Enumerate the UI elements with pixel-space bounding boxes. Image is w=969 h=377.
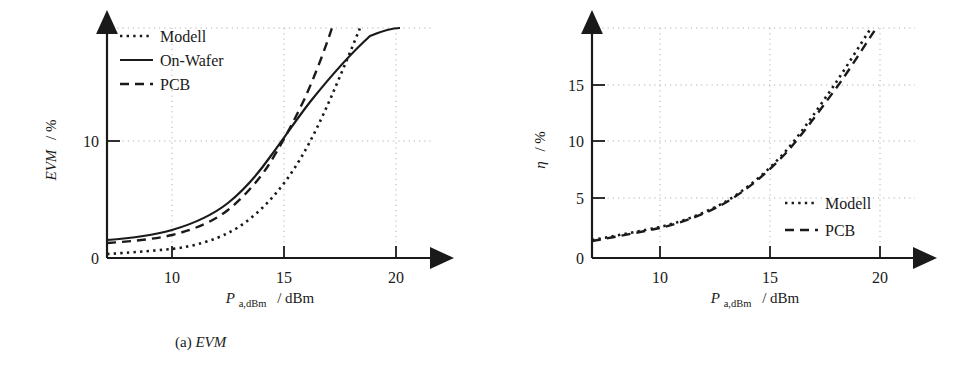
y-axis-title: η / % xyxy=(532,131,548,169)
y-axis-title-main: EVM xyxy=(43,148,59,181)
y-axis-title-unit: / % xyxy=(43,120,59,140)
legend: Modell PCB xyxy=(785,195,872,239)
chart-efficiency: 15 10 5 0 10 15 20 η / % P a,dBm / dBm xyxy=(485,0,969,330)
svg-text:P a,dBm /: P a,dBm / dBm xyxy=(710,290,800,310)
xtick-label-15: 15 xyxy=(276,269,292,286)
x-axis-title-sub: a,dBm xyxy=(724,298,752,309)
caption-a: (a) EVM xyxy=(175,334,226,351)
ytick-label-10: 10 xyxy=(83,133,99,150)
y-axis-title: EVM / % xyxy=(43,120,59,182)
subfigure-b-wirkungsgrad: 15 10 5 0 10 15 20 η / % P a,dBm / dBm xyxy=(485,0,969,377)
svg-text:η / %: η / % xyxy=(532,131,548,169)
legend-label-pcb: PCB xyxy=(825,222,855,239)
x-axis-title: P a,dBm / dBm xyxy=(710,290,800,310)
x-axis-title: P a,dBm / dBm xyxy=(225,290,315,310)
caption-a-text: EVM xyxy=(195,334,226,350)
subfigure-a-evm: 10 0 10 15 20 EVM / % P a,dBm / dBm xyxy=(0,0,484,377)
x-axis-title-main: P xyxy=(710,290,720,306)
chart-evm: 10 0 10 15 20 EVM / % P a,dBm / dBm xyxy=(0,0,484,330)
curve-modell xyxy=(107,28,360,254)
legend-label-modell: Modell xyxy=(160,28,207,45)
ytick-label-10: 10 xyxy=(568,133,584,150)
ytick-label-0: 0 xyxy=(576,250,584,267)
ytick-label-0: 0 xyxy=(91,250,99,267)
svg-text:EVM / %: EVM / % xyxy=(43,120,59,182)
x-axis-title-unit: / dBm xyxy=(277,290,314,306)
xtick-label-10: 10 xyxy=(652,269,668,286)
axis-ticks xyxy=(107,141,396,258)
xtick-label-20: 20 xyxy=(388,269,404,286)
y-axis-title-main: η xyxy=(532,161,548,168)
x-axis-title-main: P xyxy=(225,290,235,306)
figure-two-subplots: 10 0 10 15 20 EVM / % P a,dBm / dBm xyxy=(0,0,969,377)
ytick-label-15: 15 xyxy=(568,77,584,94)
legend-label-on-wafer: On-Wafer xyxy=(160,52,224,69)
x-axis-title-unit: / dBm xyxy=(762,290,799,306)
caption-a-index: (a) xyxy=(175,334,192,350)
ytick-label-5: 5 xyxy=(576,190,584,207)
legend: Modell On-Wafer PCB xyxy=(120,28,224,93)
legend-label-pcb: PCB xyxy=(160,76,190,93)
y-axis-title-unit: / % xyxy=(532,131,548,151)
x-axis-title-sub: a,dBm xyxy=(239,298,267,309)
xtick-label-10: 10 xyxy=(164,269,180,286)
gridlines xyxy=(592,28,915,258)
gridlines xyxy=(107,28,432,258)
legend-label-modell: Modell xyxy=(825,195,872,212)
svg-text:P a,dBm /: P a,dBm / dBm xyxy=(225,290,315,310)
xtick-label-20: 20 xyxy=(872,269,888,286)
xtick-label-15: 15 xyxy=(762,269,778,286)
